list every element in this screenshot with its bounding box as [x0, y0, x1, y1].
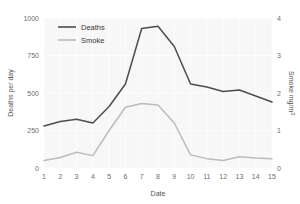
x-axis-tick-label: 13	[236, 173, 244, 180]
x-axis-ticklabels: 123456789101112131415	[42, 173, 276, 180]
x-axis-tick-label: 7	[140, 173, 144, 180]
y-axis-left-title: Deaths per day	[7, 69, 15, 117]
x-axis-tick-label: 5	[107, 173, 111, 180]
line-chart: 02505007501000 01234 1234567891011121314…	[0, 0, 300, 204]
y-axis-tick-label: 750	[27, 52, 39, 59]
y-axis-tick-label: 500	[27, 90, 39, 97]
x-axis-tick-label: 15	[268, 173, 276, 180]
y2-axis-tick-label: 3	[277, 52, 281, 59]
x-axis-tick-label: 9	[172, 173, 176, 180]
y2-axis-tick-label: 0	[277, 165, 281, 172]
y-axis-right-ticklabels: 01234	[277, 15, 281, 172]
legend-label-smoke: Smoke	[81, 36, 104, 45]
x-axis-tick-label: 10	[187, 173, 195, 180]
x-axis-tick-label: 4	[91, 173, 95, 180]
x-axis-tick-label: 12	[219, 173, 227, 180]
y-axis-tick-label: 0	[35, 165, 39, 172]
chart-container: 02505007501000 01234 1234567891011121314…	[0, 0, 300, 204]
y2-axis-tick-label: 4	[277, 15, 281, 22]
x-axis-tick-label: 3	[75, 173, 79, 180]
x-axis-tick-label: 14	[252, 173, 260, 180]
y-axis-right-title: Smoke mg/m3	[287, 71, 296, 115]
legend-label-deaths: Deaths	[81, 23, 105, 32]
y-axis-left-ticklabels: 02505007501000	[23, 15, 39, 172]
x-axis-title: Date	[151, 190, 166, 197]
y-axis-tick-label: 1000	[23, 15, 39, 22]
x-axis-tick-label: 11	[203, 173, 210, 180]
y2-axis-tick-label: 2	[277, 90, 281, 97]
x-axis-tick-label: 1	[42, 173, 46, 180]
y-axis-tick-label: 250	[27, 127, 39, 134]
x-axis-tick-label: 8	[156, 173, 160, 180]
y2-axis-tick-label: 1	[277, 127, 281, 134]
x-axis-tick-label: 2	[58, 173, 62, 180]
x-axis-tick-label: 6	[123, 173, 127, 180]
